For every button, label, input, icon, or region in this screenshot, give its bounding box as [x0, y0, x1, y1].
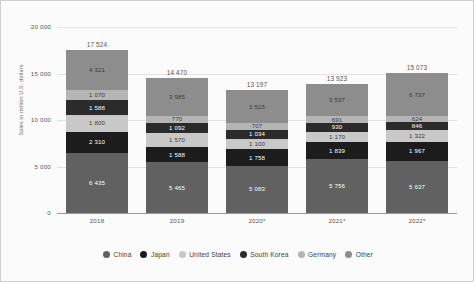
legend-item[interactable]: Japan [140, 251, 169, 258]
bar-segment[interactable]: 846 [386, 122, 448, 130]
bar-total-label: 13 923 [306, 75, 368, 82]
bar-segment-value-label: 1 170 [329, 134, 345, 140]
bar-segment-value-label: 846 [412, 123, 423, 129]
x-axis-tick-label: 2018 [66, 217, 128, 224]
bar-total-label: 17 524 [66, 41, 128, 48]
x-axis-tick-label: 2019 [146, 217, 208, 224]
bar-segment-value-label: 1 588 [169, 152, 185, 158]
bar-segment[interactable]: 930 [306, 123, 368, 132]
bar-total-label: 13 197 [226, 81, 288, 88]
bar-segment[interactable]: 5 083 [226, 166, 288, 213]
legend-label: China [114, 251, 132, 258]
bar-series-area: 4 3211 0701 5881 8002 3106 4353 9857701 … [57, 1, 457, 213]
bar-segment[interactable]: 1 092 [146, 123, 208, 133]
bar-total-label: 15 073 [386, 64, 448, 71]
bar-segment[interactable]: 4 321 [66, 50, 128, 90]
bar-segment-value-label: 3 985 [169, 94, 185, 100]
bar-segment-value-label: 2 310 [89, 139, 105, 145]
legend-label: Japan [151, 251, 170, 258]
bar-segment-value-label: 5 756 [329, 183, 345, 189]
bar-total-label: 14 470 [146, 69, 208, 76]
bar-segment[interactable]: 1 100 [226, 139, 288, 149]
bar-segment[interactable]: 2 310 [66, 132, 128, 153]
bar-segment-value-label: 1 570 [169, 137, 185, 143]
bar-segment[interactable]: 770 [146, 116, 208, 123]
bar-segment-value-label: 1 967 [409, 148, 425, 154]
bar-segment[interactable]: 3 985 [146, 78, 208, 115]
bar-segment[interactable]: 1 070 [66, 90, 128, 100]
stacked-bar[interactable]: 3 5157071 0341 1001 7585 083 [226, 90, 288, 213]
y-axis-tick-label: 15 000 [7, 70, 51, 77]
bar-segment-value-label: 4 321 [89, 67, 105, 73]
stacked-bar[interactable]: 4 3211 0701 5881 8002 3106 435 [66, 50, 128, 213]
bar-segment[interactable]: 1 034 [226, 130, 288, 140]
bar-segment[interactable]: 1 570 [146, 133, 208, 148]
bar-segment[interactable]: 1 758 [226, 149, 288, 165]
bar-segment-value-label: 5 465 [169, 185, 185, 191]
stacked-bar[interactable]: 3 9857701 0921 5701 5885 465 [146, 78, 208, 213]
bar-segment-value-label: 1 100 [249, 141, 265, 147]
bar-segment[interactable]: 6 737 [386, 73, 448, 116]
bar-segment[interactable]: 5 465 [146, 162, 208, 213]
bar-segment[interactable]: 1 322 [386, 130, 448, 142]
plot-area: Sales in million U.S. dollars 05 00010 0… [1, 1, 474, 239]
bar-segment-value-label: 1 588 [89, 105, 105, 111]
chart-legend: ChinaJapanUnited StatesSouth KoreaGerman… [1, 244, 474, 264]
legend-item[interactable]: China [103, 251, 131, 258]
bar-segment[interactable]: 1 588 [66, 100, 128, 115]
x-axis-line [57, 213, 457, 214]
bar-segment[interactable]: 3 515 [226, 90, 288, 123]
y-axis-title: Sales in million U.S. dollars [18, 20, 24, 180]
stacked-bar[interactable]: 6 7376248461 3221 9675 637 [386, 73, 448, 213]
bar-segment-value-label: 770 [172, 116, 183, 122]
y-axis-tick-label: 10 000 [7, 116, 51, 123]
x-axis-tick-label: 2022* [386, 217, 448, 224]
legend-item[interactable]: South Korea [240, 251, 289, 258]
legend-label: South Korea [250, 251, 288, 258]
bar-segment-value-label: 707 [252, 123, 263, 129]
legend-item[interactable]: Germany [298, 251, 337, 258]
bar-segment-value-label: 5 083 [249, 186, 265, 192]
bar-segment-value-label: 1 322 [409, 133, 425, 139]
y-axis-tick-label: 5 000 [7, 163, 51, 170]
legend-color-swatch-icon [240, 251, 247, 258]
legend-label: Other [356, 251, 373, 258]
legend-item[interactable]: Other [345, 251, 373, 258]
bar-segment-value-label: 1 839 [329, 148, 345, 154]
bar-segment[interactable]: 5 637 [386, 161, 448, 213]
bar-segment-value-label: 6 737 [409, 92, 425, 98]
bar-segment[interactable]: 5 756 [306, 159, 368, 213]
bar-segment-value-label: 930 [332, 124, 343, 130]
y-axis-tick-label: 20 000 [7, 23, 51, 30]
legend-color-swatch-icon [140, 251, 147, 258]
legend-item[interactable]: United States [179, 251, 231, 258]
x-axis-tick-label: 2021* [306, 217, 368, 224]
bar-segment-value-label: 1 070 [89, 92, 105, 98]
stacked-bar[interactable]: 3 5376919301 1701 8395 756 [306, 84, 368, 213]
bar-segment-value-label: 1 092 [169, 125, 185, 131]
bar-segment[interactable]: 1 170 [306, 132, 368, 143]
bar-segment-value-label: 3 537 [329, 97, 345, 103]
bar-segment-value-label: 1 758 [249, 155, 265, 161]
bar-segment-value-label: 691 [332, 117, 343, 123]
legend-label: United States [189, 251, 231, 258]
legend-color-swatch-icon [345, 251, 352, 258]
bar-segment-value-label: 6 435 [89, 180, 105, 186]
bar-segment-value-label: 1 800 [89, 120, 105, 126]
bar-segment[interactable]: 3 537 [306, 84, 368, 117]
bar-segment-value-label: 5 637 [409, 184, 425, 190]
bar-segment[interactable]: 1 588 [146, 147, 208, 162]
bar-segment-value-label: 1 034 [249, 131, 265, 137]
y-axis-tick-label: 0 [7, 209, 51, 216]
legend-color-swatch-icon [103, 251, 110, 258]
legend-label: Germany [308, 251, 336, 258]
chart-frame: Sales in million U.S. dollars 05 00010 0… [0, 0, 474, 282]
bar-segment-value-label: 3 515 [249, 104, 265, 110]
bar-segment[interactable]: 1 839 [306, 142, 368, 159]
legend-color-swatch-icon [298, 251, 305, 258]
x-axis-tick-label: 2020* [226, 217, 288, 224]
bar-segment[interactable]: 6 435 [66, 153, 128, 213]
legend-color-swatch-icon [179, 251, 186, 258]
bar-segment[interactable]: 1 800 [66, 115, 128, 132]
bar-segment[interactable]: 1 967 [386, 142, 448, 160]
